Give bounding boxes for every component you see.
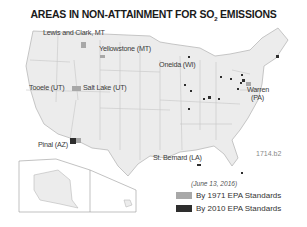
- swatch-2010: [176, 205, 192, 212]
- label-oneida: Oneida (WI): [159, 60, 196, 69]
- figure-code: 1714.b2: [256, 150, 281, 157]
- label-lewis-clark: Lewis and Clark, MT: [43, 28, 105, 37]
- swatch-1971: [176, 192, 192, 199]
- label-tooele: Tooele (UT): [29, 83, 64, 92]
- label-yellowstone: Yellowstone (MT): [99, 44, 151, 53]
- legend-item-1971: By 1971 EPA Standards: [176, 191, 281, 200]
- label-salt-lake: Salt Lake (UT): [83, 83, 127, 92]
- label-pinal: Pinal (AZ): [38, 140, 68, 149]
- legend-date: (June 13, 2016): [191, 180, 237, 187]
- label-warren-state: (PA): [251, 93, 264, 102]
- legend-item-2010: By 2010 EPA Standards: [176, 204, 281, 213]
- label-st-bernard: St. Bernard (LA): [153, 153, 202, 162]
- map-title: AREAS IN NON-ATTAINMENT FOR SO2 EMISSION…: [0, 8, 307, 22]
